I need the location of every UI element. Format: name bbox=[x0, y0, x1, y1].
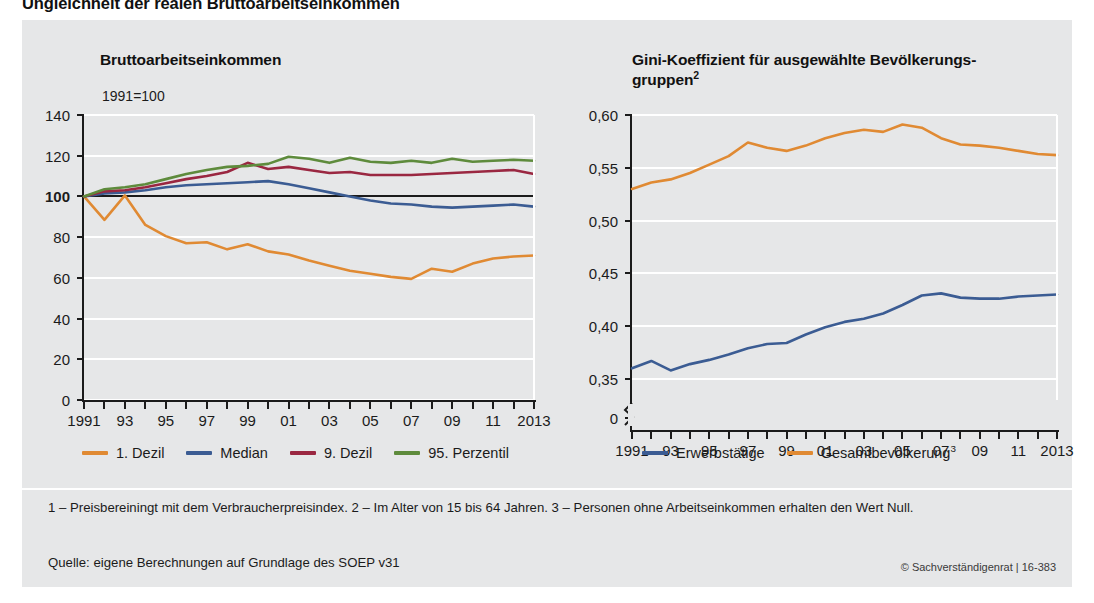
x-tick-label: 97 bbox=[198, 412, 215, 429]
x-tick-mark bbox=[369, 402, 371, 409]
x-tick-mark bbox=[533, 402, 535, 409]
legend-label-superscript: 3 bbox=[950, 443, 955, 454]
x-tick-mark bbox=[728, 432, 730, 439]
x-tick-label: 07 bbox=[403, 412, 420, 429]
x-tick-mark bbox=[247, 402, 249, 409]
y-tick-label: 0,55 bbox=[558, 159, 618, 176]
legend-label: Erwerbstätige bbox=[676, 445, 765, 461]
y-tick-label: 80 bbox=[10, 229, 70, 246]
legend-item[interactable]: Erwerbstätige bbox=[642, 445, 765, 461]
y-tick-label: 20 bbox=[10, 351, 70, 368]
x-tick-mark bbox=[431, 402, 433, 409]
x-tick-mark bbox=[124, 402, 126, 409]
series-canvas bbox=[632, 115, 1057, 400]
x-tick-mark bbox=[940, 432, 942, 439]
x-tick-mark bbox=[863, 432, 865, 439]
x-tick-mark bbox=[513, 402, 515, 409]
x-tick-mark bbox=[206, 402, 208, 409]
legend-item[interactable]: 95. Perzentil bbox=[394, 445, 509, 461]
legend-swatch bbox=[290, 451, 316, 455]
x-tick-label: 2013 bbox=[517, 412, 550, 429]
source-text: Quelle: eigene Berechnungen auf Grundlag… bbox=[48, 555, 400, 570]
x-tick-label: 11 bbox=[1011, 442, 1027, 459]
y-tick-label: 0,45 bbox=[558, 265, 618, 282]
x-tick-mark bbox=[959, 432, 961, 439]
x-tick-mark bbox=[786, 432, 788, 439]
y-tick-label: 0 bbox=[558, 410, 618, 427]
chart-legend-left: 1. DezilMedian9. Dezil95. Perzentil bbox=[82, 445, 531, 461]
legend-label: 1. Dezil bbox=[116, 445, 164, 461]
chart-panel-right: Gini-Koeffizient für ausgewählte Bevölke… bbox=[547, 20, 1072, 483]
y-tick-label: 60 bbox=[10, 269, 70, 286]
x-tick-mark bbox=[144, 402, 146, 409]
y-tick-label: 0,35 bbox=[558, 370, 618, 387]
x-tick-mark bbox=[1056, 432, 1058, 439]
chart-title-right: Gini-Koeffizient für ausgewählte Bevölke… bbox=[632, 50, 1032, 90]
x-tick-mark bbox=[689, 432, 691, 439]
x-tick-mark bbox=[267, 402, 269, 409]
legend-label: Median bbox=[220, 445, 268, 461]
y-tick-label: 100 bbox=[10, 188, 70, 205]
x-tick-mark bbox=[308, 402, 310, 409]
x-tick-label: 03 bbox=[321, 412, 338, 429]
series-line bbox=[632, 293, 1057, 370]
chart-panel-left: Bruttoarbeitseinkommen 1991=100 02040608… bbox=[22, 20, 547, 483]
footnotes-text: 1 – Preisbereiningt mit dem Verbraucherp… bbox=[48, 498, 1048, 517]
x-tick-mark bbox=[650, 432, 652, 439]
x-tick-mark bbox=[83, 402, 85, 409]
footer-divider bbox=[22, 488, 1072, 490]
legend-item[interactable]: Median bbox=[186, 445, 268, 461]
x-tick-mark bbox=[185, 402, 187, 409]
x-tick-mark bbox=[472, 402, 474, 409]
chart-unit-label-left: 1991=100 bbox=[102, 88, 165, 104]
y-tick-label: 120 bbox=[10, 147, 70, 164]
legend-label: Gesamtbevölkerung3 bbox=[821, 445, 956, 461]
chart-title-right-superscript: 2 bbox=[693, 69, 699, 81]
plot-right-border bbox=[1056, 115, 1058, 400]
legend-item[interactable]: Gesamtbevölkerung3 bbox=[787, 445, 956, 461]
x-tick-mark bbox=[708, 432, 710, 439]
plot-right-border bbox=[533, 115, 535, 400]
y-tick-label: 40 bbox=[10, 310, 70, 327]
legend-swatch bbox=[186, 451, 212, 455]
x-tick-mark bbox=[226, 402, 228, 409]
x-tick-label: 09 bbox=[444, 412, 461, 429]
x-tick-mark bbox=[670, 432, 672, 439]
x-tick-mark bbox=[328, 402, 330, 409]
x-tick-mark bbox=[747, 432, 749, 439]
legend-swatch bbox=[394, 451, 420, 455]
y-tick-label: 0,40 bbox=[558, 318, 618, 335]
plot-area-right: 00,350,400,450,500,550,60199193959799010… bbox=[632, 115, 1057, 400]
x-tick-mark bbox=[901, 432, 903, 439]
series-canvas bbox=[84, 115, 534, 400]
x-tick-mark bbox=[766, 432, 768, 439]
x-tick-label: 93 bbox=[117, 412, 134, 429]
plot-area-left: 0204060801001201401991939597990103050709… bbox=[84, 115, 534, 400]
legend-item[interactable]: 1. Dezil bbox=[82, 445, 164, 461]
x-tick-label: 1991 bbox=[67, 412, 100, 429]
chart-title-right-text: Gini-Koeffizient für ausgewählte Bevölke… bbox=[632, 51, 976, 88]
x-tick-mark bbox=[451, 402, 453, 409]
x-tick-label: 11 bbox=[485, 412, 501, 429]
x-tick-label: 2013 bbox=[1040, 442, 1073, 459]
charts-area: Bruttoarbeitseinkommen 1991=100 02040608… bbox=[22, 20, 1072, 483]
x-tick-label: 99 bbox=[239, 412, 256, 429]
y-tick-label: 0 bbox=[10, 392, 70, 409]
axis-break-mask bbox=[628, 404, 634, 426]
x-tick-mark bbox=[882, 432, 884, 439]
legend-swatch bbox=[787, 451, 813, 455]
x-tick-mark bbox=[288, 402, 290, 409]
x-tick-mark bbox=[390, 402, 392, 409]
copyright-text: © Sachverständigenrat | 16-383 bbox=[901, 561, 1056, 573]
legend-item[interactable]: 9. Dezil bbox=[290, 445, 372, 461]
x-tick-mark bbox=[998, 432, 1000, 439]
y-tick-label: 0,60 bbox=[558, 107, 618, 124]
page-title: Ungleichheit der realen Bruttoarbeitsein… bbox=[22, 0, 400, 13]
x-tick-mark bbox=[410, 402, 412, 409]
x-tick-mark bbox=[165, 402, 167, 409]
x-tick-mark bbox=[631, 432, 633, 439]
legend-label: 9. Dezil bbox=[324, 445, 372, 461]
figure-panel: Bruttoarbeitseinkommen 1991=100 02040608… bbox=[22, 20, 1072, 587]
legend-swatch bbox=[82, 451, 108, 455]
x-tick-mark bbox=[979, 432, 981, 439]
